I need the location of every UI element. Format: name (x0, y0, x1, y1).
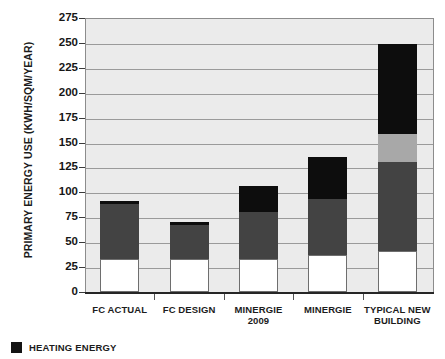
stacked-bar[interactable] (378, 44, 417, 292)
x-tick-mark (293, 294, 294, 300)
bar-segment-middle-dark (170, 225, 209, 259)
chart-container: PRIMARY ENERGY USE (KWH/SQM/YEAR) 275250… (0, 0, 445, 359)
bar-segment-base (239, 259, 278, 292)
y-tick-label: 0 (34, 286, 78, 298)
chart-legend: HEATING ENERGY (11, 342, 117, 353)
x-tick-label-line: TYPICAL NEW (357, 304, 438, 315)
bar-segment-base (378, 251, 417, 292)
y-tick-label: 25 (34, 261, 78, 273)
bar-segment-base (170, 259, 209, 292)
bar-group[interactable] (224, 18, 293, 292)
bar-group[interactable] (154, 18, 223, 292)
y-tick-label: 75 (34, 211, 78, 223)
x-tick-label: TYPICAL NEWBUILDING (357, 304, 438, 326)
stacked-bar[interactable] (308, 157, 347, 292)
bars-layer (85, 18, 432, 292)
y-tick-label: 150 (34, 137, 78, 149)
bar-segment-middle-dark (308, 199, 347, 255)
y-tick-label: 275 (34, 12, 78, 24)
bar-segment-heating-energy (378, 44, 417, 134)
y-tick-label: 100 (34, 186, 78, 198)
bar-group[interactable] (363, 18, 432, 292)
y-tick-label: 175 (34, 112, 78, 124)
x-tick-label-line: BUILDING (357, 315, 438, 326)
bar-group[interactable] (293, 18, 362, 292)
y-tick-label: 125 (34, 161, 78, 173)
x-tick-mark (224, 294, 225, 300)
bar-segment-upper-light (378, 134, 417, 163)
y-axis-title: PRIMARY ENERGY USE (KWH/SQM/YEAR) (22, 19, 34, 281)
bar-segment-middle-dark (378, 162, 417, 251)
bar-segment-base (100, 259, 139, 292)
stacked-bar[interactable] (100, 201, 139, 292)
bar-segment-heating-energy (239, 186, 278, 212)
x-tick-mark (363, 294, 364, 300)
bar-segment-middle-dark (239, 212, 278, 259)
x-tick-mark (154, 294, 155, 300)
bar-segment-heating-energy (308, 157, 347, 200)
y-tick-label: 50 (34, 236, 78, 248)
y-tick-label: 200 (34, 87, 78, 99)
bar-segment-base (308, 255, 347, 292)
y-tick-label: 225 (34, 62, 78, 74)
y-tick-label: 250 (34, 37, 78, 49)
legend-swatch-heating-energy (11, 342, 22, 353)
x-tick-label-line: 2009 (218, 315, 299, 326)
legend-label-heating-energy: HEATING ENERGY (29, 342, 117, 353)
stacked-bar[interactable] (239, 186, 278, 292)
bar-segment-middle-dark (100, 204, 139, 259)
stacked-bar[interactable] (170, 222, 209, 292)
bar-group[interactable] (85, 18, 154, 292)
x-axis-line (85, 292, 434, 294)
